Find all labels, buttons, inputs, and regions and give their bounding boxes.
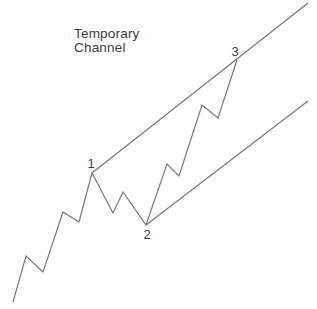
wave-point-label-1: 1 [87,156,94,171]
diagram-canvas: Temporary Channel 123 [0,0,317,309]
wave-point-label-3: 3 [231,44,238,59]
upper-channel-trendline [92,3,308,173]
wave-point-label-2: 2 [143,227,150,242]
lower-channel-trendline [146,101,308,225]
channel-diagram: 123 [0,0,317,309]
